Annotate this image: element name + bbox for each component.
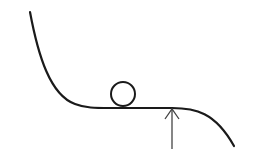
marker-arrow (165, 109, 179, 149)
potential-curve (30, 12, 234, 146)
ball (111, 82, 135, 106)
diagram-canvas (0, 0, 256, 155)
